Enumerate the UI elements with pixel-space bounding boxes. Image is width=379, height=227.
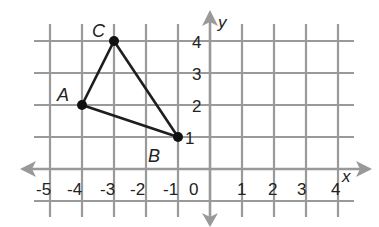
x-tick-label: -3 (100, 180, 115, 199)
vertex-a-label: A (56, 85, 69, 105)
y-tick-label: 1 (185, 129, 194, 148)
y-tick-labels: 4 3 2 1 (185, 33, 201, 148)
x-axis (20, 161, 372, 177)
x-tick-labels: -5 -4 -3 -2 -1 0 1 2 3 4 (36, 180, 340, 199)
x-tick-label: -4 (67, 180, 82, 199)
y-tick-label: 3 (192, 65, 201, 84)
triangle-abc (77, 36, 183, 142)
x-tick-label: 4 (331, 180, 340, 199)
y-axis-label: y (217, 13, 228, 32)
y-axis (202, 10, 218, 227)
x-tick-label: -5 (36, 180, 51, 199)
x-tick-label: -2 (130, 180, 145, 199)
x-tick-label: 2 (268, 180, 277, 199)
vertex-c (109, 36, 119, 46)
y-tick-label: 4 (192, 33, 201, 52)
edge-ab (82, 105, 178, 137)
x-tick-label: 1 (237, 180, 246, 199)
vertex-c-label: C (92, 21, 106, 41)
coordinate-plane: -5 -4 -3 -2 -1 0 1 2 3 4 4 3 2 1 y x A B… (0, 0, 379, 227)
vertex-b (173, 132, 183, 142)
x-axis-label: x (341, 167, 351, 186)
y-tick-label: 2 (192, 97, 201, 116)
x-tick-label: -1 (163, 180, 178, 199)
x-tick-label: 3 (297, 180, 306, 199)
vertex-b-label: B (148, 146, 160, 166)
vertex-a (77, 100, 87, 110)
x-tick-label: 0 (189, 180, 198, 199)
